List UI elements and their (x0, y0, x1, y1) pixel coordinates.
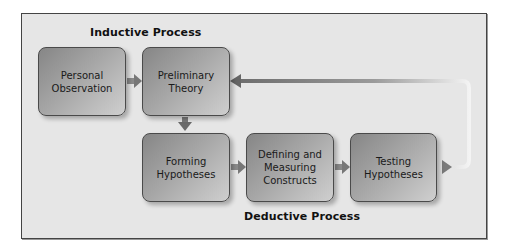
node-defining-measuring-constructs: Defining and Measuring Constructs (246, 133, 334, 202)
node-label: Personal Observation (52, 69, 113, 95)
node-personal-observation: Personal Observation (38, 47, 126, 116)
node-preliminary-theory: Preliminary Theory (142, 47, 230, 116)
node-label: Testing Hypotheses (364, 155, 423, 181)
node-label: Forming Hypotheses (157, 155, 216, 181)
node-forming-hypotheses: Forming Hypotheses (142, 133, 230, 202)
deductive-process-label: Deductive Process (244, 210, 360, 223)
node-label: Defining and Measuring Constructs (258, 148, 322, 187)
node-label: Preliminary Theory (158, 69, 214, 95)
node-testing-hypotheses: Testing Hypotheses (350, 133, 437, 202)
inductive-process-label: Inductive Process (90, 26, 201, 39)
